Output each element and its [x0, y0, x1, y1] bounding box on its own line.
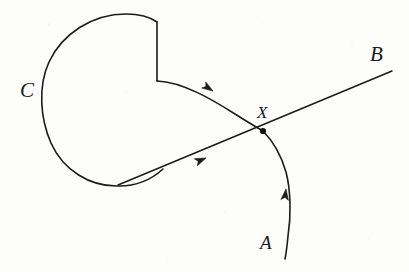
- arrow-on-upper-arc: [202, 82, 215, 94]
- arrow-on-ray: [194, 155, 207, 166]
- diagram-svg: [0, 0, 409, 272]
- label-b: B: [370, 44, 383, 65]
- label-c: C: [20, 80, 34, 101]
- intersection-dot: [260, 128, 266, 134]
- figure-canvas: C B X A: [0, 0, 409, 272]
- loop-curve-c: [42, 14, 163, 186]
- ray-to-b: [118, 71, 392, 185]
- label-x: X: [257, 104, 267, 121]
- label-a: A: [260, 233, 272, 252]
